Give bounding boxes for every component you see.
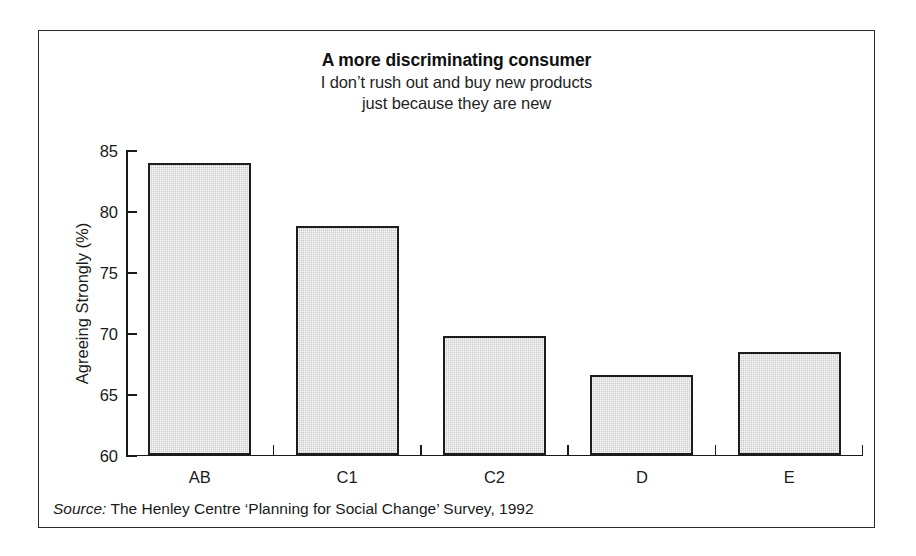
bar-C2 xyxy=(443,336,546,454)
x-tick-4 xyxy=(715,445,717,456)
source-note: Source: The Henley Centre ‘Planning for … xyxy=(53,500,534,518)
y-tick-label-70: 70 xyxy=(100,325,118,344)
y-tick-85 xyxy=(126,150,137,152)
x-tick-1 xyxy=(273,445,275,456)
chart-figure: A more discriminating consumer I don’t r… xyxy=(38,30,875,528)
bar-AB xyxy=(148,163,251,455)
x-axis-line xyxy=(126,455,863,457)
y-tick-65 xyxy=(126,394,137,396)
y-tick-label-60: 60 xyxy=(100,447,118,466)
x-label-C2: C2 xyxy=(484,468,505,487)
y-tick-label-75: 75 xyxy=(100,264,118,283)
x-label-AB: AB xyxy=(189,468,211,487)
chart-subtitle-line-2: just because they are new xyxy=(39,93,874,114)
y-tick-75 xyxy=(126,272,137,274)
source-text: The Henley Centre ‘Planning for Social C… xyxy=(110,500,533,517)
y-tick-80 xyxy=(126,211,137,213)
y-tick-60 xyxy=(126,455,137,457)
x-label-E: E xyxy=(784,468,795,487)
x-axis-right-cap xyxy=(862,445,864,456)
y-tick-label-85: 85 xyxy=(100,142,118,161)
y-axis-title: Agreeing Strongly (%) xyxy=(73,151,95,456)
x-label-C1: C1 xyxy=(337,468,358,487)
y-tick-label-65: 65 xyxy=(100,386,118,405)
title-block: A more discriminating consumer I don’t r… xyxy=(39,49,874,115)
y-tick-label-80: 80 xyxy=(100,203,118,222)
y-tick-70 xyxy=(126,333,137,335)
bar-D xyxy=(590,375,693,454)
plot-area: 606570758085 ABC1C2DE xyxy=(126,151,863,456)
bar-C1 xyxy=(296,226,399,454)
y-axis-line xyxy=(126,151,128,456)
chart-subtitle-line-1: I don’t rush out and buy new products xyxy=(39,72,874,93)
x-tick-3 xyxy=(567,445,569,456)
x-tick-2 xyxy=(420,445,422,456)
bar-E xyxy=(738,352,841,454)
chart-title: A more discriminating consumer xyxy=(39,49,874,72)
source-label: Source: xyxy=(53,500,106,517)
x-label-D: D xyxy=(636,468,648,487)
